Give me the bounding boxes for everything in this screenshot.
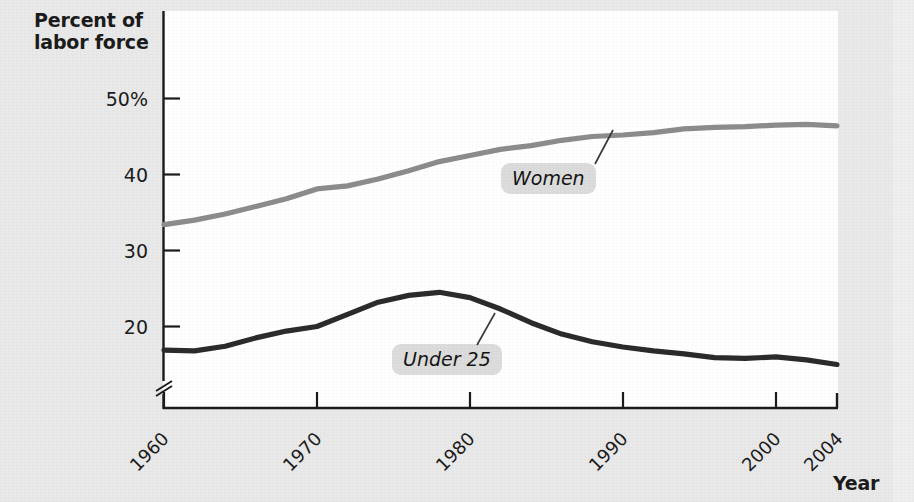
- y-axis-ticks: [164, 99, 180, 327]
- axis-lines: [163, 11, 838, 409]
- chart-figure: Percent of labor force Year 50% 40 30 20…: [0, 0, 914, 502]
- leader-line-under-25: [477, 313, 495, 345]
- chart-canvas: [0, 0, 914, 502]
- data-line-under-25: [164, 292, 837, 364]
- x-axis-ticks: [164, 392, 776, 408]
- data-line-women: [164, 124, 837, 224]
